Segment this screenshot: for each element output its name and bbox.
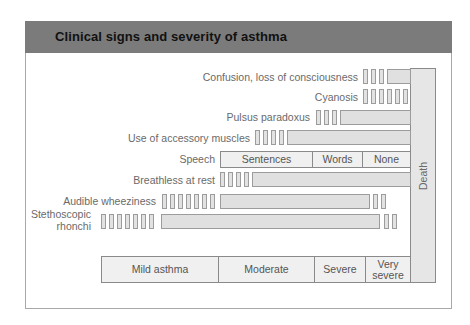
- small-bar: [379, 69, 384, 84]
- severity-scale: Mild asthma Moderate Severe Very severe: [101, 256, 411, 283]
- small-bar: [384, 214, 389, 229]
- rhonchi-bar: [161, 214, 380, 229]
- sign-label-pulsus: Pulsus paradoxus: [227, 111, 310, 123]
- small-bar: [194, 194, 199, 209]
- small-bar: [202, 194, 207, 209]
- small-bar: [373, 194, 378, 209]
- very-severe-line2: severe: [372, 270, 404, 281]
- small-bar: [363, 89, 368, 104]
- death-label: Death: [417, 161, 429, 189]
- small-bar: [149, 214, 154, 229]
- figure-title: Clinical signs and severity of asthma: [55, 29, 287, 44]
- small-bar: [392, 214, 397, 229]
- small-bar: [125, 214, 130, 229]
- sign-label-speech: Speech: [179, 153, 215, 165]
- pulsus-bar: [340, 110, 411, 125]
- small-bar: [324, 110, 329, 125]
- small-bar: [271, 130, 276, 145]
- small-bar: [162, 194, 167, 209]
- sign-label-accessory-muscles: Use of accessory muscles: [128, 132, 250, 144]
- confusion-bar: [387, 69, 411, 84]
- sign-label-cyanosis: Cyanosis: [315, 91, 358, 103]
- small-bar: [101, 214, 106, 229]
- small-bar: [210, 194, 215, 209]
- severity-severe: Severe: [315, 257, 366, 282]
- small-bar: [371, 89, 376, 104]
- severity-moderate: Moderate: [219, 257, 315, 282]
- small-bar: [387, 89, 392, 104]
- small-bar: [133, 214, 138, 229]
- small-bar: [170, 194, 175, 209]
- accessory-muscles-bar: [287, 130, 411, 145]
- small-bar: [381, 194, 386, 209]
- sign-label-confusion: Confusion, loss of consciousness: [203, 71, 358, 83]
- small-bar: [220, 172, 225, 187]
- sign-label-wheeziness: Audible wheeziness: [63, 195, 156, 207]
- small-bar: [178, 194, 183, 209]
- small-bar: [255, 130, 260, 145]
- speech-none: None: [363, 152, 410, 167]
- small-bar: [186, 194, 191, 209]
- small-bar: [379, 89, 384, 104]
- severity-mild: Mild asthma: [102, 257, 219, 282]
- sign-label-rhonchi-line1: Stethoscopic: [25, 208, 91, 220]
- small-bar: [332, 110, 337, 125]
- death-column: Death: [410, 68, 436, 283]
- small-bar: [141, 214, 146, 229]
- breathless-bar: [252, 172, 411, 187]
- small-bar: [228, 172, 233, 187]
- small-bar: [316, 110, 321, 125]
- small-bar: [117, 214, 122, 229]
- sign-label-rhonchi-line2: rhonchi: [25, 220, 91, 232]
- speech-sentences: Sentences: [221, 152, 313, 167]
- small-bar: [395, 89, 400, 104]
- small-bar: [244, 172, 249, 187]
- small-bar: [403, 89, 408, 104]
- small-bar: [109, 214, 114, 229]
- figure-header: Clinical signs and severity of asthma: [25, 21, 452, 53]
- speech-words: Words: [313, 152, 363, 167]
- small-bar: [363, 69, 368, 84]
- severity-very-severe: Very severe: [366, 257, 410, 282]
- small-bar: [236, 172, 241, 187]
- very-severe-line1: Very: [377, 259, 398, 270]
- small-bar: [371, 69, 376, 84]
- small-bar: [279, 130, 284, 145]
- sign-label-breathless: Breathless at rest: [133, 174, 215, 186]
- speech-row: Sentences Words None: [220, 151, 411, 168]
- small-bar: [263, 130, 268, 145]
- wheeziness-bar: [220, 194, 370, 209]
